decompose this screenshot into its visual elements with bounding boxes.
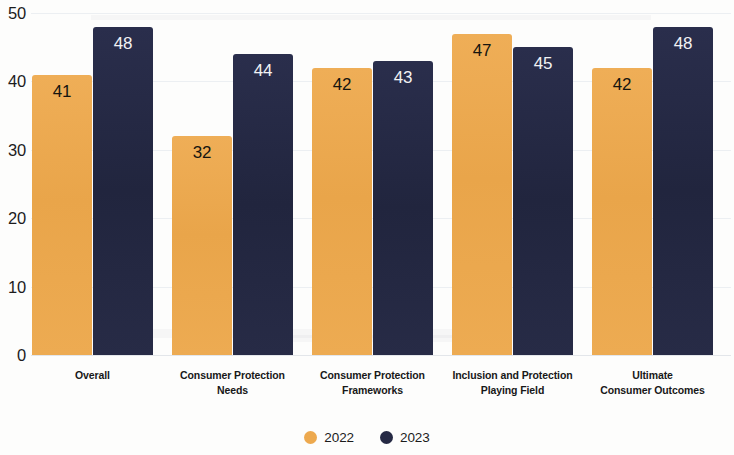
legend-swatch-icon xyxy=(304,431,317,444)
bar-2022-overall: 41 xyxy=(32,75,92,355)
bar-value-label: 47 xyxy=(452,41,512,61)
x-axis-label-line: Consumer Outcomes xyxy=(578,383,728,398)
x-axis-label-ultimate-consumer-outcomes: UltimateConsumer Outcomes xyxy=(578,368,728,397)
y-tick-label: 50 xyxy=(0,4,26,23)
bar-2022-inclusion-and-protection-playing-field: 47 xyxy=(452,34,512,355)
bar-value-label: 44 xyxy=(233,61,293,81)
axis-baseline xyxy=(31,355,731,356)
bar-2022-ultimate-consumer-outcomes: 42 xyxy=(592,68,652,355)
bar-2023-overall: 48 xyxy=(93,27,153,355)
bar-value-label: 43 xyxy=(373,68,433,88)
x-axis-label-overall: Overall xyxy=(18,368,168,383)
plot-area: 41324247424844434548 xyxy=(31,13,731,355)
y-tick-label: 40 xyxy=(0,72,26,91)
x-axis-label-consumer-protection-frameworks: Consumer ProtectionFrameworks xyxy=(298,368,448,397)
bar-2022-consumer-protection-frameworks: 42 xyxy=(312,68,372,355)
x-axis-label-inclusion-and-protection-playing-field: Inclusion and ProtectionPlaying Field xyxy=(438,368,588,397)
bar-value-label: 42 xyxy=(592,75,652,95)
x-axis-label-line: Needs xyxy=(158,383,308,398)
x-axis-label-line: Overall xyxy=(18,368,168,383)
bar-value-label: 45 xyxy=(513,54,573,74)
y-tick-label: 20 xyxy=(0,209,26,228)
bar-value-label: 48 xyxy=(653,34,713,54)
legend-label: 2022 xyxy=(324,430,354,445)
x-axis-label-line: Frameworks xyxy=(298,383,448,398)
x-axis-label-line: Playing Field xyxy=(438,383,588,398)
bar-value-label: 41 xyxy=(32,82,92,102)
bar-2023-ultimate-consumer-outcomes: 48 xyxy=(653,27,713,355)
legend-item-2022: 2022 xyxy=(304,430,354,445)
bar-2023-consumer-protection-needs: 44 xyxy=(233,54,293,355)
x-axis-label-line: Inclusion and Protection xyxy=(438,368,588,383)
bar-2023-inclusion-and-protection-playing-field: 45 xyxy=(513,47,573,355)
gridline xyxy=(31,13,731,14)
y-tick-label: 10 xyxy=(0,278,26,297)
x-axis-label-line: Consumer Protection xyxy=(158,368,308,383)
x-axis-label-line: Consumer Protection xyxy=(298,368,448,383)
legend-label: 2023 xyxy=(400,430,430,445)
bar-value-label: 32 xyxy=(172,143,232,163)
bar-2022-consumer-protection-needs: 32 xyxy=(172,136,232,355)
y-tick-label: 30 xyxy=(0,141,26,160)
bar-value-label: 48 xyxy=(93,34,153,54)
bar-value-label: 42 xyxy=(312,75,372,95)
x-axis-label-consumer-protection-needs: Consumer ProtectionNeeds xyxy=(158,368,308,397)
bar-2023-consumer-protection-frameworks: 43 xyxy=(373,61,433,355)
bar-chart: 50 40 30 20 10 0 41324247424844434548 Ov… xyxy=(0,0,734,455)
legend-swatch-icon xyxy=(380,431,393,444)
chart-legend: 2022 2023 xyxy=(0,430,734,445)
legend-item-2023: 2023 xyxy=(380,430,430,445)
y-tick-label: 0 xyxy=(0,346,26,365)
x-axis-label-line: Ultimate xyxy=(578,368,728,383)
